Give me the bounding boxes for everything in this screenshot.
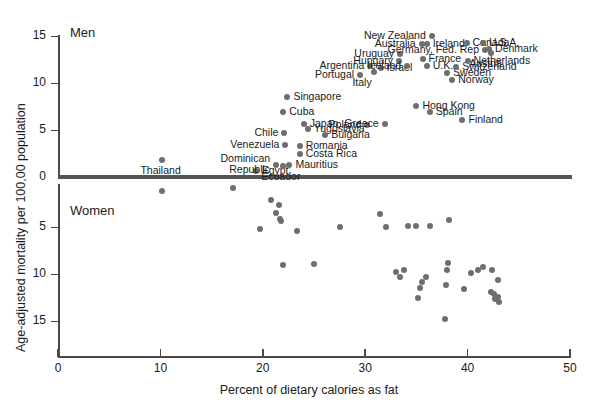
- data-point-men: [280, 163, 286, 169]
- x-tick-20: [262, 349, 264, 357]
- point-label-men: Mauritius: [295, 159, 338, 170]
- x-tick-label-20: 20: [243, 361, 283, 375]
- data-point-men: [424, 63, 430, 69]
- y-axis-spine-women: [58, 184, 60, 356]
- x-tick-label-0: 0: [38, 361, 78, 375]
- data-point-men: [281, 130, 287, 136]
- point-label-men: Austria: [469, 58, 502, 69]
- data-point-women: [446, 217, 452, 223]
- data-point-women: [230, 185, 236, 191]
- panel-title-men: Men: [70, 25, 95, 40]
- y-tick-label-men-10: 10: [20, 75, 46, 89]
- data-point-women: [489, 267, 495, 273]
- y-axis-title: Age-adjusted mortality per 100,00 popula…: [14, 103, 28, 352]
- data-point-men: [382, 121, 388, 127]
- point-label-men: Finland: [468, 114, 502, 125]
- data-point-men: [420, 56, 426, 62]
- point-label-men: Cuba: [289, 106, 314, 117]
- data-point-men: [413, 103, 419, 109]
- data-point-women: [294, 228, 300, 234]
- point-label-men: Thailand: [140, 165, 180, 176]
- data-point-women: [311, 261, 317, 267]
- y-tick-men-10: [51, 83, 59, 85]
- data-point-women: [443, 282, 449, 288]
- x-tick-label-30: 30: [345, 361, 385, 375]
- data-point-women: [444, 267, 450, 273]
- data-point-men: [464, 40, 470, 46]
- x-tick-30: [364, 349, 366, 357]
- data-point-men: [273, 162, 279, 168]
- point-label-men: Portugal: [315, 69, 354, 80]
- x-tick-50: [569, 349, 571, 357]
- data-point-women: [480, 264, 486, 270]
- data-point-women: [405, 223, 411, 229]
- point-label-men: Spain: [436, 106, 463, 117]
- data-point-women: [496, 299, 502, 305]
- chart-figure: 0510155101501020304050 ThailandEgypt'Dom…: [0, 0, 592, 403]
- data-point-women: [401, 267, 407, 273]
- data-point-men: [459, 117, 465, 123]
- x-tick-label-10: 10: [140, 361, 180, 375]
- data-point-women: [277, 216, 283, 222]
- point-label-men: Ecuador: [261, 171, 300, 182]
- data-point-men: [449, 77, 455, 83]
- data-point-women: [495, 277, 501, 283]
- y-axis-spine-men: [58, 35, 60, 177]
- data-point-women: [468, 270, 474, 276]
- data-point-men: [286, 162, 292, 168]
- x-tick-40: [467, 349, 469, 357]
- y-tick-women-15: [51, 321, 59, 323]
- panel-title-women: Women: [70, 203, 115, 218]
- data-point-women: [415, 295, 421, 301]
- y-tick-women-10: [51, 274, 59, 276]
- data-point-women: [383, 224, 389, 230]
- data-point-women: [461, 286, 467, 292]
- data-point-men: [297, 151, 303, 157]
- y-tick-men-5: [51, 130, 59, 132]
- x-tick-0: [57, 349, 59, 357]
- point-label-men: Romania: [306, 140, 348, 151]
- x-tick-10: [160, 349, 162, 357]
- data-point-women: [442, 316, 448, 322]
- point-label-men: Bulgaria: [331, 129, 370, 140]
- point-label-men: Chile: [254, 127, 278, 138]
- data-point-men: [297, 143, 303, 149]
- data-point-women: [445, 260, 451, 266]
- data-point-men: [284, 94, 290, 100]
- data-point-women: [276, 202, 282, 208]
- data-point-women: [268, 197, 274, 203]
- zero-divider-line: [58, 175, 572, 179]
- data-point-men: [282, 142, 288, 148]
- x-axis-title: Percent of dietary calories as fat: [0, 383, 592, 397]
- data-point-men: [280, 109, 286, 115]
- y-tick-label-men-15: 15: [20, 28, 46, 42]
- data-point-men: [427, 109, 433, 115]
- point-label-men: Denmark: [495, 43, 538, 54]
- point-label-men: Greece: [344, 118, 378, 129]
- x-axis-spine: [58, 356, 571, 358]
- data-point-women: [280, 262, 286, 268]
- point-label-men: Venezuela: [230, 139, 279, 150]
- data-point-women: [423, 274, 429, 280]
- point-label-men: Norway: [458, 74, 494, 85]
- data-point-women: [337, 224, 343, 230]
- data-point-women: [377, 211, 383, 217]
- data-point-women: [257, 226, 263, 232]
- data-point-women: [427, 223, 433, 229]
- data-point-men: [480, 40, 486, 46]
- point-label-men: Iceland: [367, 60, 401, 71]
- data-point-men: [429, 33, 435, 39]
- data-point-men: [444, 70, 450, 76]
- data-point-men: [322, 132, 328, 138]
- data-point-men: [488, 50, 494, 56]
- point-label-men: Singapore: [293, 91, 341, 102]
- y-tick-men-15: [51, 36, 59, 38]
- x-tick-label-40: 40: [448, 361, 488, 375]
- point-label-men: Germany, Fed. Rep: [388, 44, 479, 55]
- point-label-men: Italy: [352, 77, 371, 88]
- point-label-men: New Zealand: [364, 30, 426, 41]
- x-tick-label-50: 50: [550, 361, 590, 375]
- data-point-women: [397, 274, 403, 280]
- data-point-women: [159, 188, 165, 194]
- data-point-women: [273, 210, 279, 216]
